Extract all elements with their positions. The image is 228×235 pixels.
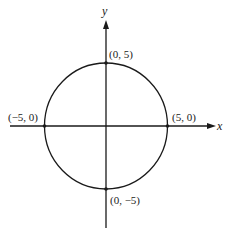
point-left (43, 124, 47, 128)
x-axis-label: x (216, 119, 223, 133)
x-axis-arrow-icon (207, 123, 216, 129)
point-bottom (104, 187, 108, 191)
y-axis-label: y (101, 4, 108, 18)
point-bottom-label: (0, −5) (110, 194, 140, 207)
point-top-label: (0, 5) (109, 48, 133, 61)
circle-diagram: x y (0, 5) (−5, 0) (5, 0) (0, −5) (0, 0, 228, 235)
point-top (104, 61, 108, 65)
y-axis-arrow-icon (103, 20, 109, 29)
x-axis (10, 123, 216, 129)
point-right-label: (5, 0) (172, 111, 196, 124)
point-right (166, 124, 170, 128)
point-left-label: (−5, 0) (8, 111, 38, 124)
